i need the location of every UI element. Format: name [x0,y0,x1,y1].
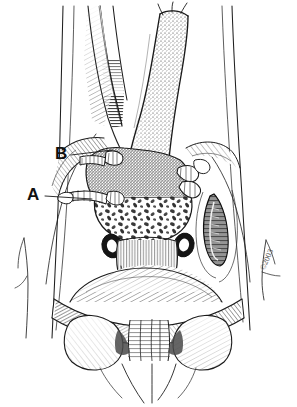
annotation-label-a: A [27,186,39,203]
medical-illustration [0,0,297,407]
figure-root: A B ©2003 [0,0,297,407]
annotation-label-b: B [55,145,67,162]
